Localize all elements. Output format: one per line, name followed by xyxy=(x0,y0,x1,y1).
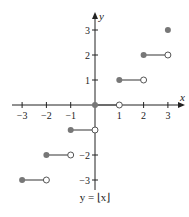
open-dot xyxy=(92,127,98,133)
closed-dot xyxy=(92,102,98,108)
step-segment xyxy=(116,77,146,83)
open-dot xyxy=(165,52,171,58)
y-tick-label: −3 xyxy=(79,175,90,186)
x-tick-label: 1 xyxy=(117,110,122,121)
step-segment xyxy=(43,152,73,158)
axes xyxy=(12,12,185,190)
closed-dot xyxy=(165,27,171,33)
closed-dot xyxy=(19,177,25,183)
y-tick-label: 3 xyxy=(85,25,90,36)
step-segment xyxy=(165,27,171,33)
step-segment xyxy=(92,102,122,108)
floor-function-graph: −3−2−1123−3−2123 x y y = ⌊x⌋ xyxy=(0,0,189,217)
y-axis-label: y xyxy=(98,10,104,22)
open-dot xyxy=(116,102,122,108)
step-segment xyxy=(68,127,98,133)
closed-dot xyxy=(68,127,74,133)
step-segment xyxy=(141,52,171,58)
closed-dot xyxy=(43,152,49,158)
open-dot xyxy=(68,152,74,158)
closed-dot xyxy=(141,52,147,58)
y-tick-label: −2 xyxy=(79,150,90,161)
step-segment xyxy=(19,177,49,183)
open-dot xyxy=(43,177,49,183)
x-axis-label: x xyxy=(179,91,185,103)
function-caption: y = ⌊x⌋ xyxy=(80,191,111,203)
x-tick-label: −1 xyxy=(65,110,76,121)
open-dot xyxy=(141,77,147,83)
y-tick-label: 2 xyxy=(85,50,90,61)
closed-dot xyxy=(116,77,122,83)
x-tick-label: 3 xyxy=(165,110,170,121)
x-tick-label: 2 xyxy=(141,110,146,121)
x-tick-label: −2 xyxy=(41,110,52,121)
y-tick-label: 1 xyxy=(85,75,90,86)
x-tick-label: −3 xyxy=(17,110,28,121)
y-axis-arrow-icon xyxy=(92,12,98,19)
